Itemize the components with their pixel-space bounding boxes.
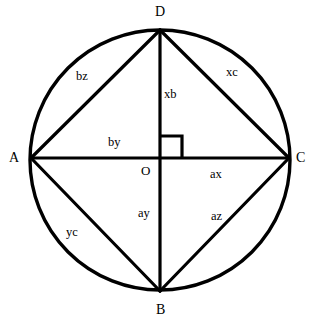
segment-label-yc: yc	[66, 226, 78, 239]
right-angle-marker	[160, 136, 182, 158]
geometry-diagram: D A C B O bz xc xb by ax ay az yc	[0, 0, 312, 325]
vertex-label-c: C	[296, 151, 305, 165]
segment-label-bz: bz	[76, 70, 88, 83]
segment-label-xb: xb	[164, 88, 177, 101]
vertex-label-d: D	[155, 5, 165, 19]
segment-ad	[31, 30, 160, 158]
segment-label-ax: ax	[210, 168, 222, 181]
vertex-label-a: A	[9, 151, 19, 165]
vertex-label-b: B	[156, 303, 165, 317]
segment-label-xc: xc	[226, 66, 238, 79]
geometry-svg-canvas	[0, 0, 312, 325]
segment-label-ay: ay	[138, 207, 150, 220]
segment-label-az: az	[211, 210, 222, 223]
segment-dc	[160, 30, 289, 158]
center-label-o: O	[141, 164, 150, 177]
segment-label-by: by	[108, 136, 121, 149]
